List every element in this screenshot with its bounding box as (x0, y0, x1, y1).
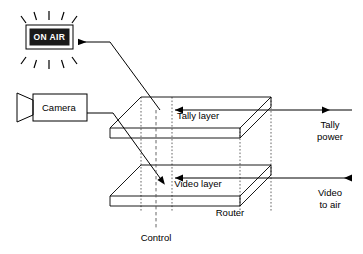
video-layer-thickness (110, 196, 240, 206)
arrow-left-icon (322, 107, 330, 114)
tally-layer-label: Tally layer (177, 110, 219, 121)
diagram-svg: ON AIR Camera (0, 0, 363, 254)
tally-power-label-line2: power (317, 131, 343, 142)
router-layer-tally: Tally layer (110, 97, 271, 138)
control-link: Control (141, 110, 172, 243)
control-label: Control (141, 232, 172, 243)
on-air-sign: ON AIR (21, 11, 77, 69)
tally-power-label-line1: Tally (320, 119, 339, 130)
camera-block: Camera (17, 93, 87, 122)
on-air-sign-label: ON AIR (34, 32, 66, 42)
video-to-air-label-line2: to air (319, 199, 340, 210)
port-video-to-air: Video to air (318, 187, 342, 210)
camera-lens-icon (17, 93, 33, 122)
video-to-air-label-line1: Video (318, 187, 342, 198)
video-layer-side (240, 165, 271, 206)
diagram-canvas: ON AIR Camera (0, 0, 363, 254)
router-layer-video: Video layer (110, 165, 271, 206)
camera-label: Camera (42, 102, 77, 113)
tally-layer-side (240, 97, 271, 138)
camera-feed-line (87, 113, 160, 178)
tally-feed-line (78, 42, 160, 110)
router-label: Router (216, 207, 245, 218)
arrow-right-icon (344, 175, 352, 182)
port-tally-power: Tally power (317, 119, 343, 142)
